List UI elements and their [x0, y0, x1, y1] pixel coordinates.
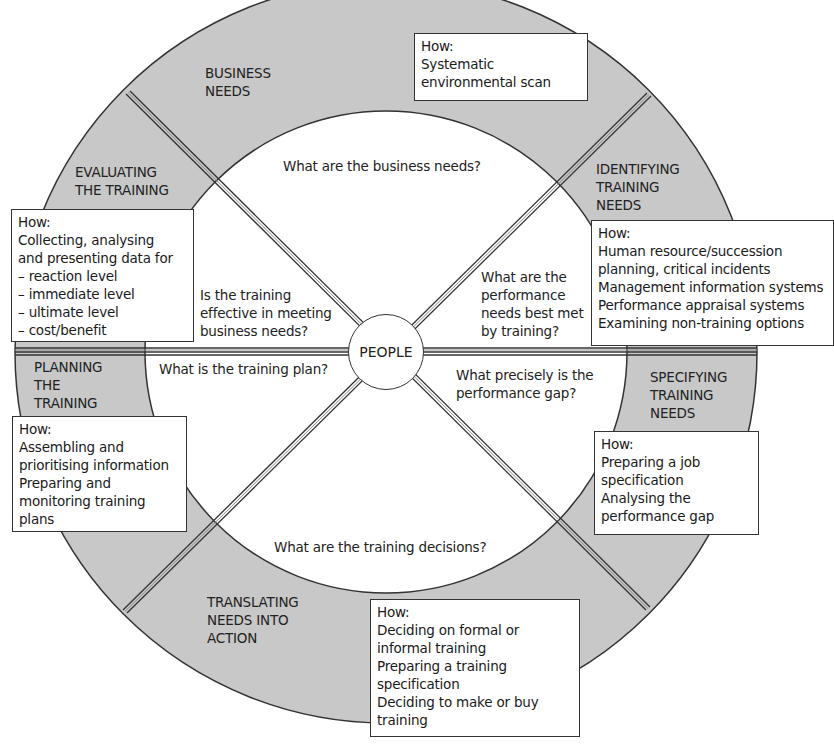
how-box-identifying-training-needs: How: Human resource/succession planning,… — [591, 220, 834, 346]
question-identifying-training-needs: What are the performance needs best met … — [481, 268, 584, 340]
how-line: planning, critical incidents — [598, 260, 827, 278]
how-box-translating-needs-into-action: How: Deciding on formal or informal trai… — [370, 599, 580, 737]
how-line: Preparing and — [19, 474, 180, 492]
how-line: Assembling and — [19, 438, 180, 456]
how-line: How: — [19, 420, 180, 438]
how-line: – immediate level — [18, 285, 187, 303]
how-line: How: — [377, 603, 573, 621]
how-line: plans — [19, 510, 180, 528]
how-box-evaluating-the-training: How: Collecting, analysing and presentin… — [11, 209, 194, 342]
how-line: Human resource/succession — [598, 242, 827, 260]
how-line: How: — [421, 37, 581, 55]
how-line: Preparing a job — [601, 453, 752, 471]
how-line: Collecting, analysing — [18, 231, 187, 249]
how-line: prioritising information — [19, 456, 180, 474]
question-business-needs: What are the business needs? — [283, 157, 481, 175]
how-box-specifying-training-needs: How: Preparing a job specification Analy… — [594, 431, 759, 535]
how-line: Deciding on formal or — [377, 621, 573, 639]
question-translating-needs-into-action: What are the training decisions? — [274, 538, 486, 556]
question-planning-the-training: What is the training plan? — [159, 360, 328, 378]
how-line: Performance appraisal systems — [598, 296, 827, 314]
how-line: performance gap — [601, 507, 752, 525]
how-line: – reaction level — [18, 267, 187, 285]
how-line: How: — [601, 435, 752, 453]
how-line: specification — [601, 471, 752, 489]
stage-label-identifying-training-needs: IDENTIFYING TRAINING NEEDS — [596, 160, 680, 214]
how-line: How: — [18, 213, 187, 231]
question-evaluating-the-training: Is the training effective in meeting bus… — [200, 286, 332, 340]
stage-label-business-needs: BUSINESS NEEDS — [205, 64, 271, 100]
stage-label-translating-needs-into-action: TRANSLATING NEEDS INTO ACTION — [207, 593, 299, 647]
how-line: environmental scan — [421, 73, 581, 91]
how-box-planning-the-training: How: Assembling and prioritising informa… — [12, 416, 187, 532]
stage-label-specifying-training-needs: SPECIFYING TRAINING NEEDS — [650, 368, 727, 422]
how-line: Systematic — [421, 55, 581, 73]
how-line: Preparing a training — [377, 657, 573, 675]
how-line: Management information systems — [598, 278, 827, 296]
how-line: specification — [377, 675, 573, 693]
people-center-node: PEOPLE — [348, 314, 424, 390]
stage-label-planning-the-training: PLANNING THE TRAINING — [34, 358, 102, 412]
how-line: and presenting data for — [18, 249, 187, 267]
how-line: monitoring training — [19, 492, 180, 510]
how-line: training — [377, 711, 573, 729]
question-specifying-training-needs: What precisely is the performance gap? — [456, 366, 593, 402]
how-line: – cost/benefit — [18, 321, 187, 339]
people-label: PEOPLE — [359, 344, 412, 360]
how-line: Deciding to make or buy — [377, 693, 573, 711]
how-line: – ultimate level — [18, 303, 187, 321]
how-line: Analysing the — [601, 489, 752, 507]
how-box-business-needs: How: Systematic environmental scan — [414, 33, 588, 101]
how-line: Examining non-training options — [598, 314, 827, 332]
how-line: How: — [598, 224, 827, 242]
how-line: informal training — [377, 639, 573, 657]
stage-label-evaluating-the-training: EVALUATING THE TRAINING — [75, 163, 169, 199]
